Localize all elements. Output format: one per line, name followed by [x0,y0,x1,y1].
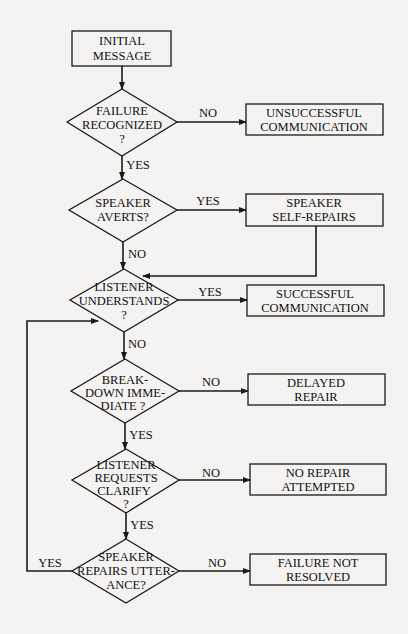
edge-label-yes: YES [130,518,154,532]
node-text: SUCCESSFUL [276,287,354,301]
node-text: REQUESTS [94,471,157,485]
node-text: COMMUNICATION [261,301,369,315]
node-text: LISTENER [94,280,154,294]
node-text: LISTENER [96,458,156,472]
node-text: RECOGNIZED [82,118,162,132]
edge-label-yes: YES [196,194,220,208]
node-text: UNDERSTANDS [79,294,170,308]
node-text: BREAK- [102,373,149,387]
node-text: DOWN IMME- [85,386,165,400]
node-text: CLARIFY [97,484,150,498]
node-delayed-repair: DELAYED REPAIR [248,374,385,405]
node-failure-not-resolved: FAILURE NOT RESOLVED [250,554,386,585]
node-text: ? [123,497,129,511]
arrow-repairs-yes-loop [27,321,98,571]
node-speaker-self-repairs: SPEAKER SELF-REPAIRS [246,194,383,226]
node-text: UNSUCCESSFUL [266,106,362,120]
node-text: MESSAGE [93,49,152,63]
node-successful-communication: SUCCESSFUL COMMUNICATION [247,285,384,316]
decision-speaker-averts: SPEAKER AVERTS? [69,179,177,242]
node-text: INITIAL [99,34,145,48]
decision-failure-recognized: FAILURE RECOGNIZED ? [67,89,177,156]
node-text: DIATE ? [101,399,146,413]
node-text: ? [121,308,127,322]
node-no-repair-attempted: NO REPAIR ATTEMPTED [250,464,386,495]
node-text: SPEAKER [286,196,342,210]
node-text: ATTEMPTED [282,480,355,494]
edge-label-yes: YES [38,556,62,570]
node-text: SPEAKER [98,550,154,564]
node-text: SPEAKER [95,196,151,210]
node-unsuccessful-communication: UNSUCCESSFUL COMMUNICATION [246,104,383,135]
node-text: REPAIRS UTTER- [77,564,175,578]
edge-label-no: NO [202,466,220,480]
edge-label-yes: YES [198,285,222,299]
node-text: ? [119,132,125,146]
edge-label-yes: YES [126,158,150,172]
arrow-self-repairs-to-understands [143,226,316,276]
node-text: NO REPAIR [286,466,351,480]
node-text: REPAIR [294,390,338,404]
node-text: AVERTS? [97,210,149,224]
node-text: FAILURE [96,104,148,118]
node-text: DELAYED [287,376,345,390]
decision-speaker-repairs-utterance: SPEAKER REPAIRS UTTER- ANCE? [72,539,179,603]
decision-breakdown-immediate: BREAK- DOWN IMME- DIATE ? [71,359,179,423]
decision-listener-requests-clarify: LISTENER REQUESTS CLARIFY ? [72,449,179,513]
node-text: RESOLVED [286,570,350,584]
flowchart-canvas: INITIAL MESSAGE FAILURE RECOGNIZED ? NO … [0,0,408,634]
edge-label-no: NO [128,337,146,351]
node-text: ANCE? [106,578,146,592]
edge-label-no: NO [202,375,220,389]
edge-label-no: NO [208,556,226,570]
edge-label-yes: YES [129,428,153,442]
edge-label-no: NO [128,247,146,261]
decision-listener-understands: LISTENER UNDERSTANDS ? [70,269,178,332]
node-text: COMMUNICATION [260,120,368,134]
node-text: FAILURE NOT [278,556,359,570]
edge-label-no: NO [199,106,217,120]
node-initial-message: INITIAL MESSAGE [72,31,171,66]
node-text: SELF-REPAIRS [272,210,356,224]
